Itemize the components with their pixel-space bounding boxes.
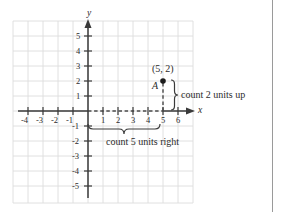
y-tick-label-1: 1 bbox=[76, 92, 80, 101]
y-tick-label-neg1: -1 bbox=[72, 122, 79, 131]
x-tick-label-6: 6 bbox=[176, 116, 180, 125]
point-coordinate-label: (5, 2) bbox=[152, 64, 174, 74]
y-tick-label-neg5: -5 bbox=[72, 182, 79, 191]
x-axis-arrow bbox=[186, 108, 195, 115]
x-tick-label-neg3: -3 bbox=[36, 116, 43, 125]
vertical-annotation-text: count 2 units up bbox=[181, 90, 245, 100]
vertical-brace bbox=[171, 80, 178, 110]
x-tick-label-5: 5 bbox=[161, 116, 165, 125]
y-tick-label-4: 4 bbox=[76, 47, 80, 56]
y-axis-label: y bbox=[87, 9, 91, 19]
y-tick-label-3: 3 bbox=[76, 62, 80, 71]
x-axis-label: x bbox=[198, 106, 202, 116]
x-tick-label-3: 3 bbox=[131, 116, 135, 125]
x-tick-label-1: 1 bbox=[101, 116, 105, 125]
x-tick-label-neg2: -2 bbox=[51, 116, 58, 125]
point-name-label: A bbox=[152, 81, 158, 91]
y-tick-label-neg3: -3 bbox=[72, 152, 79, 161]
horizontal-brace bbox=[88, 124, 160, 134]
y-tick-label-neg4: -4 bbox=[72, 167, 79, 176]
page-right-rule bbox=[272, 0, 273, 212]
y-axis-arrow bbox=[85, 19, 92, 28]
y-tick-label-2: 2 bbox=[76, 77, 80, 86]
x-tick-label-neg4: -4 bbox=[21, 116, 28, 125]
y-tick-label-neg2: -2 bbox=[72, 137, 79, 146]
plotted-point-a bbox=[160, 78, 166, 84]
horizontal-annotation-text: count 5 units right bbox=[106, 137, 179, 147]
x-tick-label-4: 4 bbox=[146, 116, 150, 125]
plot-svg bbox=[0, 0, 281, 212]
coordinate-plane-figure: -4 -3 -2 -1 1 2 3 4 5 6 5 4 3 2 1 -1 -2 … bbox=[0, 0, 281, 212]
x-tick-label-2: 2 bbox=[116, 116, 120, 125]
y-tick-label-5: 5 bbox=[76, 32, 80, 41]
